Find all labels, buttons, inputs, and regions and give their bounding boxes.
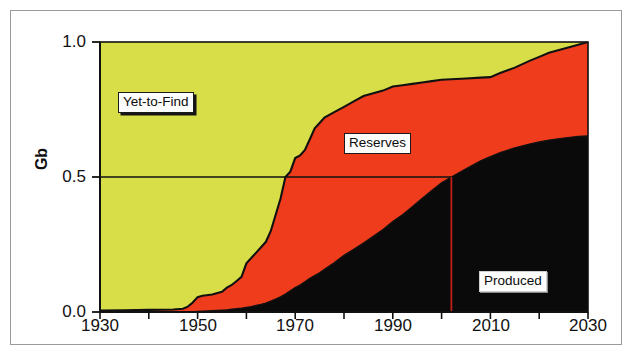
x-tick-label-1990: 1990 [358, 316, 428, 336]
x-tick-label-1970: 1970 [260, 316, 330, 336]
x-tick-label-2010: 2010 [456, 316, 526, 336]
x-tick-label-1930: 1930 [65, 316, 135, 336]
label-produced: Produced [479, 271, 547, 292]
figure-container: Gb 0.0 0.5 1.0 1930 1950 1970 1990 2010 … [0, 0, 635, 358]
x-tick-label-1950: 1950 [163, 316, 233, 336]
x-tick-label-2030: 2030 [553, 316, 623, 336]
label-yet-to-find: Yet-to-Find [118, 92, 194, 113]
oil-depletion-area-chart [0, 0, 635, 358]
y-tick-marks [92, 42, 100, 312]
y-tick-label-1: 0.5 [40, 167, 86, 187]
y-tick-label-2: 1.0 [40, 32, 86, 52]
label-reserves: Reserves [344, 133, 411, 154]
